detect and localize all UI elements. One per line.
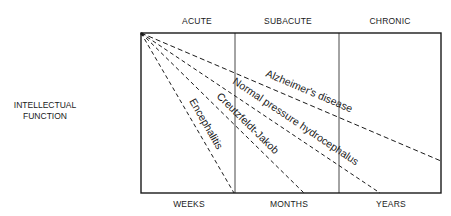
- phase-label-acute: ACUTE: [182, 16, 212, 26]
- time-label-years: YEARS: [376, 199, 406, 209]
- phase-label-subacute: SUBACUTE: [264, 16, 312, 26]
- y-axis-label: INTELLECTUAL FUNCTION: [14, 100, 76, 122]
- origin-point: [140, 32, 143, 35]
- curve-alzheimers: [141, 33, 441, 161]
- time-label-months: MONTHS: [270, 199, 308, 209]
- curve-normal-pressure-hydrocephalus: [141, 33, 380, 193]
- y-axis-label-line-2: FUNCTION: [14, 111, 76, 122]
- curve-encephalitis: [141, 33, 234, 193]
- y-axis-label-line-1: INTELLECTUAL: [14, 100, 76, 111]
- label-encephalitis: Encephalitis: [187, 96, 226, 151]
- phase-label-chronic: CHRONIC: [369, 16, 410, 26]
- time-label-weeks: WEEKS: [173, 199, 205, 209]
